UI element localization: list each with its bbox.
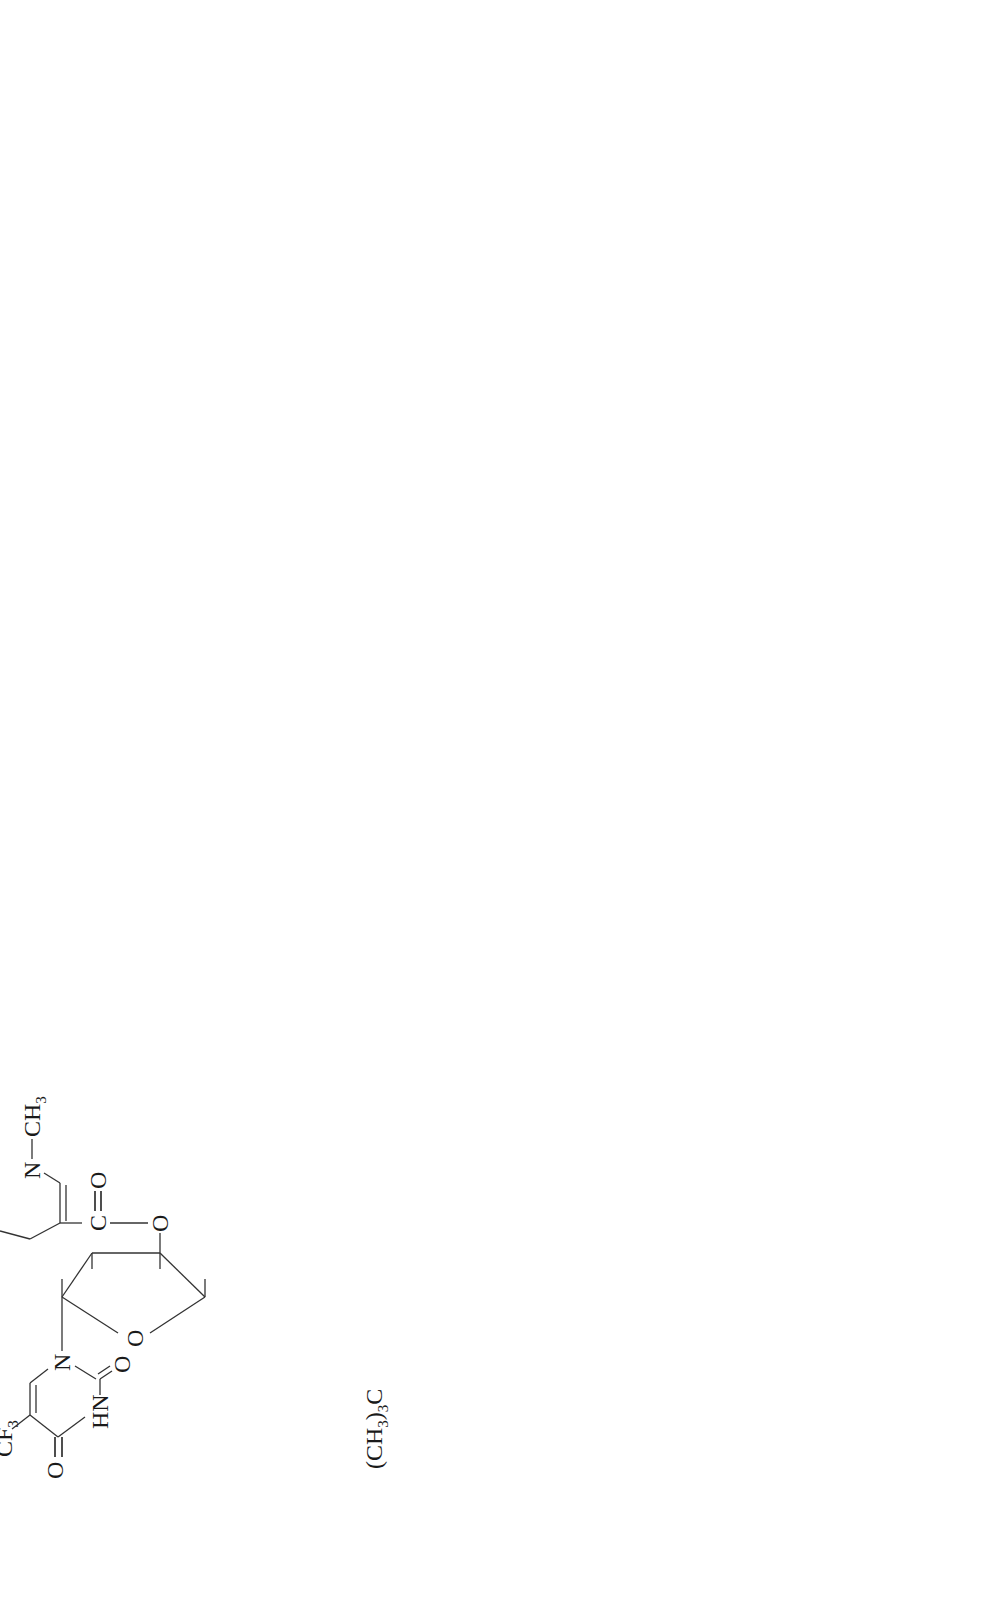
atom-hn: HN <box>87 1394 113 1429</box>
atom-cf3: CF3 <box>0 1420 21 1457</box>
molecule-a: O N HN O CF3 O O C O <box>0 1096 205 1479</box>
atom-o: O <box>109 1356 135 1373</box>
atom-o: O <box>147 1215 173 1232</box>
a-tbu-group: (CH3)3C <box>361 1389 391 1469</box>
atom-n: N <box>19 1162 45 1179</box>
atom-ch3: CH3 <box>19 1096 49 1137</box>
atom-o: O <box>85 1172 111 1189</box>
atom-c: C <box>85 1215 111 1231</box>
reaction-scheme: O N HN O CF3 O O C O <box>0 0 1002 1609</box>
diagram-frame: O N HN O CF3 O O C O <box>0 0 1002 1609</box>
atom-n: N <box>49 1354 75 1371</box>
atom-o: O <box>42 1462 68 1479</box>
atom-o-ring: O <box>122 1330 148 1347</box>
